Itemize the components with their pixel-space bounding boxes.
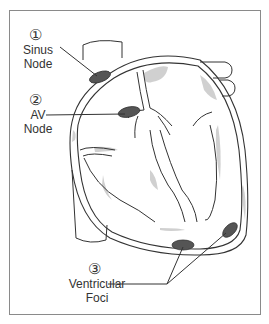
av-node-label-line2: Node: [18, 122, 58, 136]
label-number-2: ②: [25, 91, 45, 109]
av-node-label: AV Node: [18, 108, 58, 136]
sinus-node-label: Sinus Node: [18, 43, 58, 71]
label-number-3: ③: [84, 260, 104, 278]
ventricular-foci-label-line1: Ventricular: [62, 277, 132, 291]
label-number-1: ①: [25, 26, 45, 44]
ventricular-foci-label-line2: Foci: [62, 291, 132, 305]
sinus-node: [88, 69, 112, 86]
aorta: [83, 41, 122, 60]
septum: [80, 70, 217, 222]
sinus-node-label-line1: Sinus: [18, 43, 58, 57]
av-node-label-line1: AV: [18, 108, 58, 122]
sinus-node-label-line2: Node: [18, 57, 58, 71]
ventricular-focus-1: [172, 240, 194, 250]
ventricular-foci-label: Ventricular Foci: [62, 277, 132, 305]
leader-lines: [46, 47, 226, 284]
nodes: [88, 69, 240, 250]
